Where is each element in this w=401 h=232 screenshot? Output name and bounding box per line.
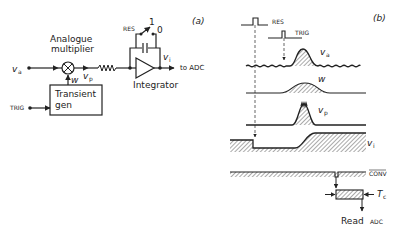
- gen-label-1: Transient: [54, 89, 97, 99]
- va-sub: a: [326, 51, 330, 58]
- reset-switch-icon: [140, 27, 155, 36]
- weight-w-label: w: [71, 75, 79, 85]
- res-pulse-label: RES: [272, 18, 284, 25]
- panel-b-timing-diagram: (b) RES TRIG v a w v p v i CONV: [230, 13, 387, 226]
- vi-hatch: [230, 133, 366, 152]
- diagram-canvas: (a) v a Analogue multiplier v p: [0, 0, 401, 232]
- conversion-time-box: [336, 190, 363, 199]
- trig-pulse-label: TRIG: [294, 29, 310, 36]
- product-vp-sub: p: [89, 75, 93, 83]
- tc-sub: c: [383, 193, 386, 200]
- integrator-label: Integrator: [133, 80, 178, 90]
- panel-b-tag: (b): [373, 13, 386, 23]
- vi-sub: i: [373, 142, 375, 149]
- read-adc-label: ADC: [370, 218, 383, 225]
- vp-sub: p: [324, 109, 328, 117]
- w-label: w: [318, 74, 326, 84]
- resistor-icon: [98, 65, 116, 71]
- op-amp-icon: [136, 58, 154, 78]
- res-label: RES: [123, 25, 135, 32]
- res-pulse: [241, 18, 268, 25]
- input-va-sub: a: [18, 68, 22, 75]
- multiplier-icon: [62, 62, 74, 74]
- gen-label-2: gen: [55, 100, 72, 110]
- read-label: Read: [341, 216, 364, 226]
- conv-hatch: [230, 172, 366, 177]
- panel-a-block-diagram: (a) v a Analogue multiplier v p: [9, 16, 205, 115]
- switch-0-label: 0: [157, 25, 163, 35]
- output-vi-sub: i: [169, 56, 171, 63]
- trig-input-label: TRIG: [9, 104, 25, 111]
- to-adc-label: to ADC: [180, 64, 204, 72]
- switch-1-label: 1: [149, 17, 155, 27]
- multiplier-title-1: Analogue: [50, 34, 93, 44]
- conv-label: CONV: [369, 170, 387, 177]
- panel-a-tag: (a): [192, 16, 205, 26]
- multiplier-title-2: multiplier: [51, 44, 94, 54]
